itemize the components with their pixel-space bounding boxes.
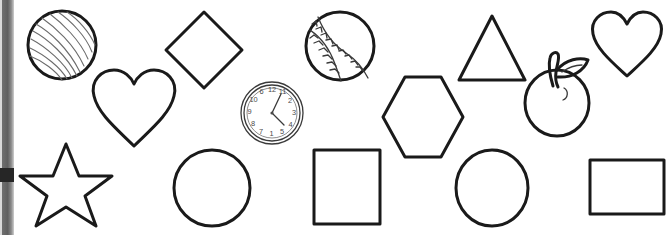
shape-heart-right[interactable] (588, 8, 666, 80)
clock-numeral: 3 (292, 108, 296, 117)
apple-icon (516, 46, 598, 138)
shape-star[interactable] (16, 140, 116, 230)
clock-numeral: 12 (268, 85, 276, 94)
shape-circle-left[interactable] (170, 146, 254, 230)
shape-baseball[interactable] (302, 8, 378, 84)
rectangle-icon (586, 156, 668, 218)
heart-icon (588, 8, 666, 80)
clock-numeral: 2 (288, 96, 292, 105)
shape-apple[interactable] (516, 46, 598, 138)
star-icon (16, 140, 116, 230)
clock-numeral: 4 (288, 120, 292, 129)
clock-numeral: 1 (269, 129, 273, 138)
clock-center-pin (270, 111, 273, 114)
worksheet-page: 612111029384715 (0, 0, 671, 235)
clock-numeral: 10 (249, 95, 257, 104)
shape-square[interactable] (310, 146, 384, 228)
circle-icon (452, 146, 532, 230)
clock-numeral: 5 (280, 127, 284, 136)
shape-rectangle[interactable] (586, 156, 668, 218)
shapes-canvas: 612111029384715 (0, 0, 671, 235)
shape-clock[interactable]: 612111029384715 (238, 80, 306, 148)
baseball-icon (302, 8, 378, 84)
clock-numeral: 6 (259, 87, 263, 96)
shape-circle-right[interactable] (452, 146, 532, 230)
diamond-icon (162, 8, 246, 92)
clock-numeral: 8 (251, 119, 255, 128)
clock-numeral: 7 (259, 127, 263, 136)
square-icon (310, 146, 384, 228)
shape-diamond[interactable] (162, 8, 246, 92)
clock-icon: 612111029384715 (238, 80, 306, 148)
clock-numeral: 9 (247, 107, 251, 116)
circle-icon (170, 146, 254, 230)
